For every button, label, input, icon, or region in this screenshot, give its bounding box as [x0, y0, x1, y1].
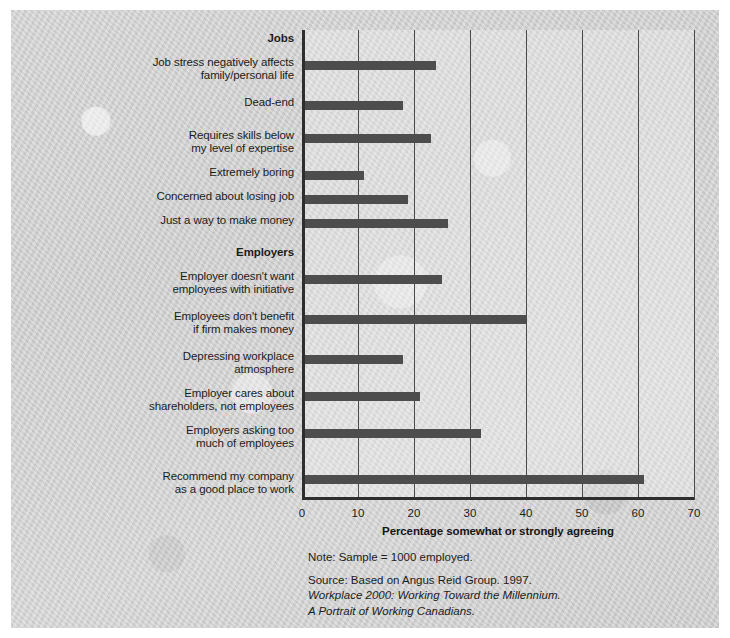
x-tick-70: 70 [674, 507, 714, 519]
footer-source-title: Workplace 2000: Working Toward the Mille… [308, 588, 688, 604]
x-tick-20: 20 [394, 507, 434, 519]
bar [302, 475, 644, 484]
footer-source-subtitle: A Portrait of Working Canadians. [308, 604, 688, 620]
bar [302, 392, 420, 401]
category-label-concerned-losing-job: Concerned about losing job [11, 190, 294, 204]
category-label-depressing-workplace: Depressing workplace [11, 350, 294, 364]
gridline-70 [694, 30, 695, 500]
gridline-60 [638, 30, 639, 500]
category-label-no-initiative: Employer doesn't want [11, 270, 294, 284]
category-label-dead-end: Dead-end [11, 96, 294, 110]
gridline-40 [526, 30, 527, 500]
x-tick-60: 60 [618, 507, 658, 519]
plot-area [302, 30, 694, 500]
bar [302, 101, 403, 110]
x-tick-40: 40 [506, 507, 546, 519]
bar [302, 219, 448, 228]
bar [302, 171, 364, 180]
x-tick-0: 0 [282, 507, 322, 519]
category-label-requires-skills: Requires skills below [11, 129, 294, 143]
category-label-no-benefit-line2: if firm makes money [11, 323, 294, 337]
x-tick-10: 10 [338, 507, 378, 519]
category-label-asking-too-much: Employers asking too [11, 424, 294, 438]
category-label-requires-skills-line2: my level of expertise [11, 142, 294, 156]
bar [302, 134, 431, 143]
bar [302, 195, 408, 204]
bar [302, 61, 436, 70]
category-label-job-stress: Job stress negatively affects [11, 56, 294, 70]
category-label-just-a-way-to-make-money: Just a way to make money [11, 214, 294, 228]
category-label-no-initiative-line2: employees with initiative [11, 283, 294, 297]
gridline-50 [582, 30, 583, 500]
category-label-asking-too-much-line2: much of employees [11, 437, 294, 451]
category-label-recommend-company-line2: as a good place to work [11, 483, 294, 497]
x-tick-50: 50 [562, 507, 602, 519]
category-label-depressing-workplace-line2: atmosphere [11, 363, 294, 377]
bar [302, 275, 442, 284]
category-label-column: Jobs Job stress negatively affects famil… [11, 30, 294, 500]
y-axis-line [302, 30, 305, 500]
footer-notes: Note: Sample = 1000 employed. Source: Ba… [308, 550, 688, 619]
footer-note: Note: Sample = 1000 employed. [308, 550, 688, 566]
category-label-job-stress-line2: family/personal life [11, 69, 294, 83]
category-label-extremely-boring: Extremely boring [11, 166, 294, 180]
bar [302, 355, 403, 364]
figure-panel: Jobs Job stress negatively affects famil… [11, 10, 719, 628]
group-heading-jobs: Jobs [11, 32, 294, 46]
x-axis-line [302, 497, 694, 500]
category-label-shareholders: Employer cares about [11, 387, 294, 401]
category-label-shareholders-line2: shareholders, not employees [11, 400, 294, 414]
footer-source: Source: Based on Angus Reid Group. 1997. [308, 573, 688, 589]
category-label-recommend-company: Recommend my company [11, 470, 294, 484]
x-axis-title: Percentage somewhat or strongly agreeing [302, 525, 694, 537]
x-tick-30: 30 [450, 507, 490, 519]
bar [302, 429, 481, 438]
category-label-no-benefit: Employees don't benefit [11, 310, 294, 324]
group-heading-employers: Employers [11, 246, 294, 260]
bar [302, 315, 526, 324]
